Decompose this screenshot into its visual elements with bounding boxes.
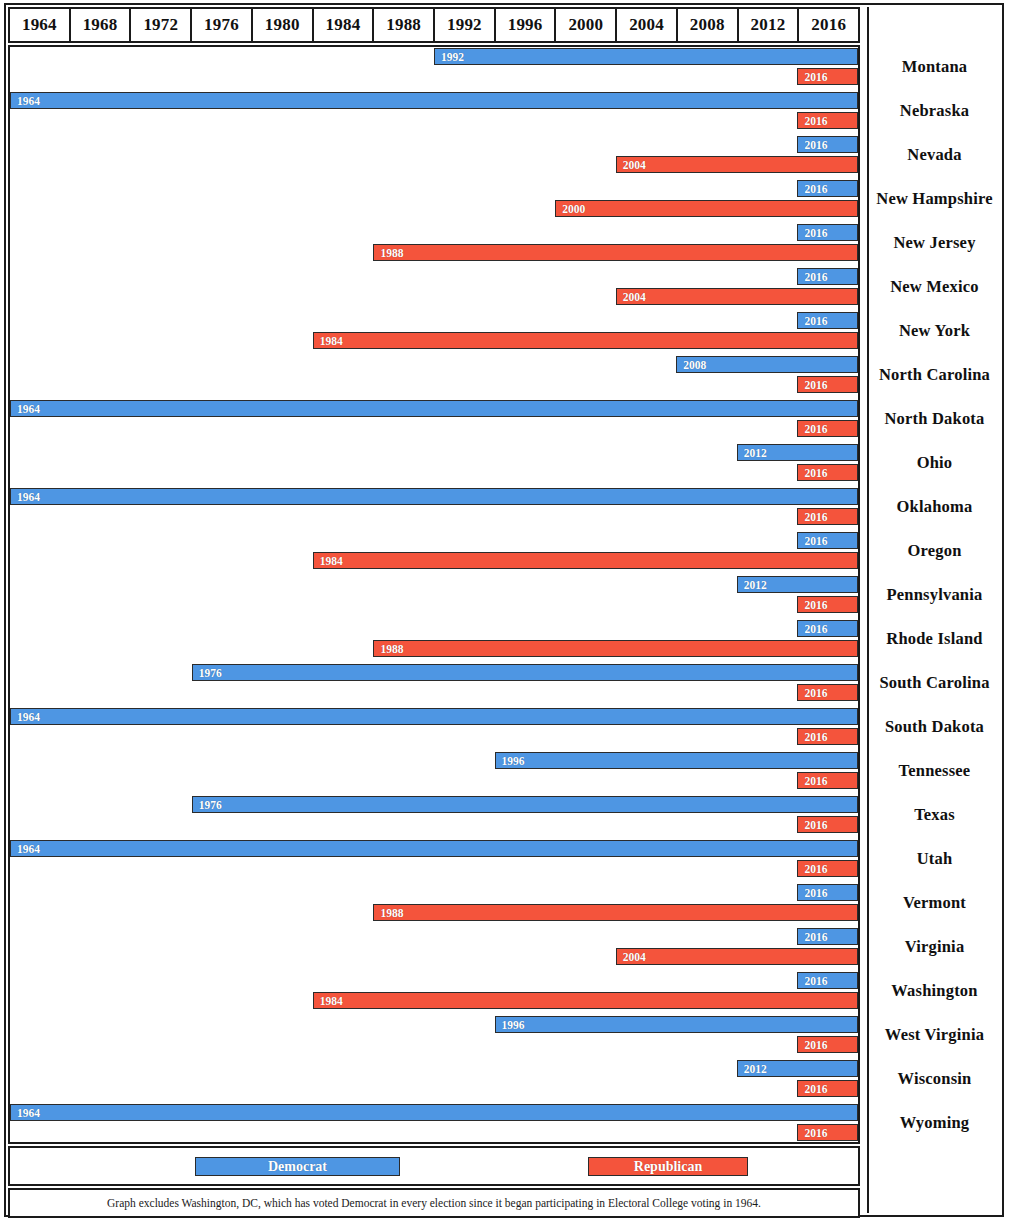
democrat-bar[interactable]: 2016 (797, 884, 858, 901)
republican-bar[interactable]: 2016 (797, 860, 858, 877)
state-row: 19642016 (10, 399, 858, 443)
democrat-bar[interactable]: 1976 (192, 664, 858, 681)
axis-year-1964: 1964 (10, 9, 71, 41)
democrat-bar[interactable]: 2016 (797, 268, 858, 285)
republican-bar[interactable]: 2016 (797, 68, 858, 85)
republican-bar[interactable]: 2016 (797, 1124, 858, 1141)
democrat-bar[interactable]: 2016 (797, 928, 858, 945)
republican-bar[interactable]: 2016 (797, 1080, 858, 1097)
state-row: 20161988 (10, 619, 858, 663)
republican-bar[interactable]: 2016 (797, 772, 858, 789)
axis-year-2000: 2000 (556, 9, 617, 41)
democrat-bar-label: 2012 (738, 1063, 767, 1075)
republican-bar[interactable]: 1988 (373, 904, 858, 921)
state-row: 19642016 (10, 91, 858, 135)
democrat-bar[interactable]: 1964 (10, 92, 858, 109)
chart-columns: 1964196819721976198019841988199219962000… (6, 5, 1002, 1215)
democrat-bar[interactable]: 2016 (797, 180, 858, 197)
republican-bar[interactable]: 2016 (797, 596, 858, 613)
republican-bar[interactable]: 2016 (797, 420, 858, 437)
legend: Democrat Republican (8, 1146, 860, 1186)
democrat-bar-label: 2012 (738, 447, 767, 459)
republican-bar[interactable]: 2016 (797, 464, 858, 481)
republican-bar[interactable]: 2016 (797, 508, 858, 525)
democrat-bar[interactable]: 2012 (737, 576, 858, 593)
republican-bar[interactable]: 2004 (616, 948, 858, 965)
democrat-bar[interactable]: 2016 (797, 312, 858, 329)
state-label-texas: Texas (869, 793, 1000, 837)
democrat-bar[interactable]: 2012 (737, 1060, 858, 1077)
democrat-bar[interactable]: 2016 (797, 136, 858, 153)
democrat-bar[interactable]: 1964 (10, 840, 858, 857)
democrat-bar[interactable]: 1964 (10, 488, 858, 505)
republican-bar[interactable]: 2016 (797, 728, 858, 745)
democrat-bar[interactable]: 2016 (797, 620, 858, 637)
democrat-bar[interactable]: 1992 (434, 48, 858, 65)
democrat-bar[interactable]: 1976 (192, 796, 858, 813)
republican-bar[interactable]: 2004 (616, 156, 858, 173)
democrat-bar[interactable]: 1996 (495, 752, 858, 769)
republican-bar[interactable]: 1988 (373, 640, 858, 657)
democrat-bar[interactable]: 2008 (676, 356, 858, 373)
state-label-vermont: Vermont (869, 881, 1000, 925)
republican-bar[interactable]: 2000 (555, 200, 858, 217)
republican-bar[interactable]: 2016 (797, 816, 858, 833)
democrat-bar-label: 1964 (11, 1107, 40, 1119)
republican-bar[interactable]: 1984 (313, 992, 858, 1009)
democrat-bar[interactable]: 1964 (10, 708, 858, 725)
republican-bar-label: 2016 (798, 1039, 827, 1051)
legend-item-republican: Republican (588, 1157, 748, 1176)
democrat-bar-label: 2016 (798, 227, 827, 239)
state-label-utah: Utah (869, 837, 1000, 881)
state-row: 19762016 (10, 663, 858, 707)
republican-bar[interactable]: 1988 (373, 244, 858, 261)
democrat-bar-label: 1976 (193, 799, 222, 811)
democrat-bar[interactable]: 2016 (797, 972, 858, 989)
republican-bar[interactable]: 2016 (797, 1036, 858, 1053)
democrat-bar-label: 1964 (11, 711, 40, 723)
legend-label-democrat: Democrat (268, 1159, 327, 1175)
state-labels-column: MontanaNebraskaNevadaNew HampshireNew Je… (867, 7, 1000, 1213)
democrat-bar-label: 1996 (496, 1019, 525, 1031)
democrat-bar[interactable]: 1964 (10, 400, 858, 417)
legend-item-democrat: Democrat (195, 1157, 400, 1176)
state-row: 20122016 (10, 1059, 858, 1103)
state-row: 19642016 (10, 487, 858, 531)
republican-bar[interactable]: 2016 (797, 684, 858, 701)
democrat-bar[interactable]: 1996 (495, 1016, 858, 1033)
state-row: 20161988 (10, 223, 858, 267)
state-label-oregon: Oregon (869, 529, 1000, 573)
state-row: 20082016 (10, 355, 858, 399)
republican-bar-label: 1984 (314, 555, 343, 567)
state-label-north-dakota: North Dakota (869, 397, 1000, 441)
state-row: 19922016 (10, 47, 858, 91)
democrat-bar[interactable]: 2016 (797, 224, 858, 241)
republican-bar[interactable]: 2016 (797, 112, 858, 129)
state-row: 20162000 (10, 179, 858, 223)
state-row: 20161984 (10, 971, 858, 1015)
republican-bar[interactable]: 1984 (313, 332, 858, 349)
state-row: 20122016 (10, 443, 858, 487)
democrat-bar[interactable]: 2012 (737, 444, 858, 461)
democrat-bar-label: 2016 (798, 271, 827, 283)
state-row: 20162004 (10, 267, 858, 311)
axis-year-2004: 2004 (617, 9, 678, 41)
republican-bar[interactable]: 2004 (616, 288, 858, 305)
axis-year-1968: 1968 (71, 9, 132, 41)
democrat-bar[interactable]: 2016 (797, 532, 858, 549)
republican-bar[interactable]: 2016 (797, 376, 858, 393)
republican-bar[interactable]: 1984 (313, 552, 858, 569)
state-label-nevada: Nevada (869, 133, 1000, 177)
state-label-virginia: Virginia (869, 925, 1000, 969)
state-row: 19962016 (10, 1015, 858, 1059)
axis-year-1980: 1980 (253, 9, 314, 41)
democrat-bar[interactable]: 1964 (10, 1104, 858, 1121)
republican-bar-label: 2016 (798, 511, 827, 523)
state-label-south-dakota: South Dakota (869, 705, 1000, 749)
democrat-bar-label: 1992 (435, 51, 464, 63)
state-label-wyoming: Wyoming (869, 1101, 1000, 1145)
state-label-rhode-island: Rhode Island (869, 617, 1000, 661)
axis-year-2016: 2016 (799, 9, 858, 41)
axis-year-2008: 2008 (678, 9, 739, 41)
republican-bar-label: 2016 (798, 71, 827, 83)
